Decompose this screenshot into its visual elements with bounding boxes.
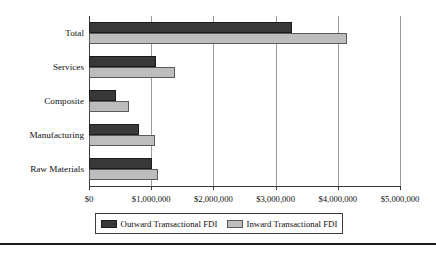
bar-inward [89, 135, 155, 146]
chart-plot-area: TotalServicesCompositeManufacturingRaw M… [0, 6, 436, 196]
figure: TotalServicesCompositeManufacturingRaw M… [0, 0, 436, 257]
x-tick-label: $1,000,000 [132, 194, 171, 204]
legend-item-outward: Outward Transactional FDI [101, 219, 218, 229]
chart-legend: Outward Transactional FDI Inward Transac… [95, 213, 343, 234]
x-tick-label: $5,000,000 [381, 194, 420, 204]
x-tick-label: $0 [85, 194, 94, 204]
axis-tick [400, 186, 401, 190]
chart-axes: $0$1,000,000$2,000,000$3,000,000$4,000,0… [89, 16, 400, 186]
category-label: Total [0, 28, 84, 38]
bar-inward [89, 101, 129, 112]
x-tick-label: $4,000,000 [318, 194, 357, 204]
axis-tick [89, 186, 90, 190]
x-tick-label: $3,000,000 [256, 194, 295, 204]
bar-inward [89, 67, 175, 78]
bar-outward [89, 22, 292, 33]
bar-inward [89, 33, 347, 44]
bar-inward [89, 169, 158, 180]
legend-item-inward: Inward Transactional FDI [227, 219, 338, 229]
legend-label-inward: Inward Transactional FDI [247, 219, 338, 229]
bar-outward [89, 56, 156, 67]
legend-label-outward: Outward Transactional FDI [121, 219, 218, 229]
bottom-divider [0, 243, 436, 245]
axis-tick [338, 186, 339, 190]
axis-tick [213, 186, 214, 190]
category-axis-labels: TotalServicesCompositeManufacturingRaw M… [0, 16, 84, 186]
gridline [400, 16, 401, 186]
category-label: Composite [0, 96, 84, 106]
bar-outward [89, 158, 152, 169]
x-tick-label: $2,000,000 [194, 194, 233, 204]
axis-tick [276, 186, 277, 190]
axis-tick [151, 186, 152, 190]
category-axis-line [89, 186, 400, 187]
dark-swatch-icon [101, 220, 117, 228]
bar-outward [89, 124, 139, 135]
category-label: Raw Materials [0, 164, 84, 174]
light-swatch-icon [227, 220, 243, 228]
category-label: Services [0, 62, 84, 72]
category-label: Manufacturing [0, 130, 84, 140]
bar-outward [89, 90, 116, 101]
